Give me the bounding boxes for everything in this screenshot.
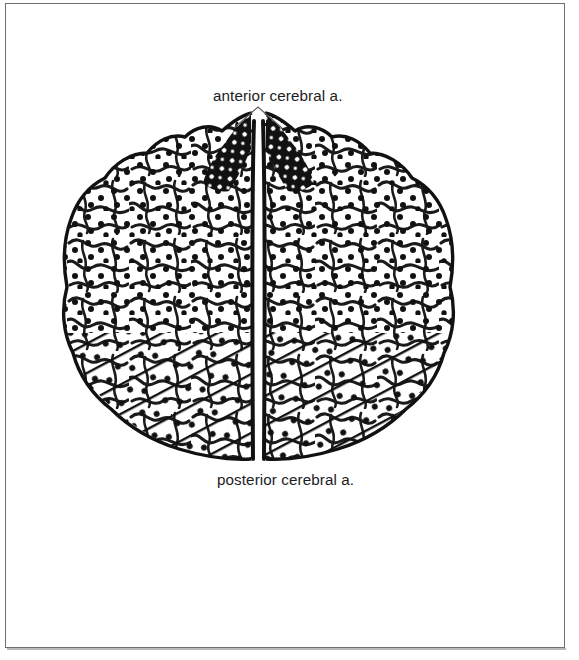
label-anterior-cerebral-artery: anterior cerebral a. (213, 88, 342, 103)
label-posterior-cerebral-artery: posterior cerebral a. (217, 472, 354, 487)
interhemispheric-fissure-right-edge (263, 121, 265, 459)
page-canvas: anterior cerebral a. posterior cerebral … (0, 0, 579, 660)
left-hemisphere (45, 93, 285, 483)
interhemispheric-fissure-left-edge (252, 121, 254, 459)
right-hemisphere (245, 93, 475, 483)
